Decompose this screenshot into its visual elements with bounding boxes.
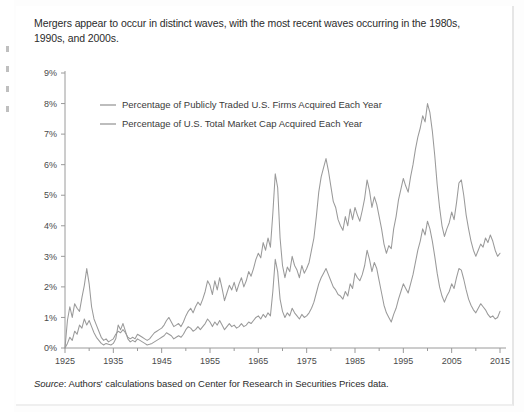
source-label: Source [34, 378, 64, 389]
figure-caption: Mergers appear to occur in distinct wave… [34, 16, 486, 46]
gutter-mark [6, 66, 9, 72]
figure-frame [16, 6, 514, 406]
page-gutter [0, 0, 14, 412]
gutter-mark [6, 106, 9, 112]
gutter-mark [6, 46, 9, 52]
gutter-mark [6, 86, 9, 92]
source-note: Source: Authors' calculations based on C… [34, 378, 486, 389]
source-text: : Authors' calculations based on Center … [64, 378, 389, 389]
figure-page: Mergers appear to occur in distinct wave… [0, 0, 524, 412]
